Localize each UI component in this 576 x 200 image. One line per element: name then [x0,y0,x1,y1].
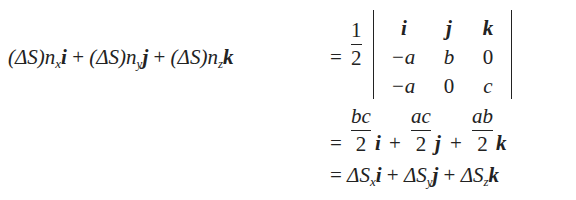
unit-vector-k: k [496,133,507,154]
unit-vector-j: j [433,163,439,187]
delta-s-coef: (ΔS) [89,45,126,69]
det-cell-r0c2: k [483,18,494,39]
fraction-denominator: 2 [477,134,488,155]
fraction-denominator: 2 [356,134,367,155]
normal-n: n [45,45,56,69]
equals-sign-line1: = [330,47,342,68]
unit-vector-j: j [435,133,441,154]
normal-n: n [126,45,137,69]
fraction-bar [351,44,362,45]
unit-vector-k: k [223,45,234,69]
lhs-term-z: (ΔS)nzk [171,45,234,69]
plus-sign: + [153,45,165,69]
det-cell-r2c1: 0 [444,76,455,97]
fraction-numerator: ab [472,106,493,127]
normal-n: n [207,45,218,69]
fraction-bc-over-2: bc 2 [351,106,371,155]
unit-vector-j: j [142,45,148,69]
plus-sign: + [72,45,84,69]
equation-line3: = ΔSxi + ΔSyj + ΔSzk [330,165,499,186]
fraction-bar [411,130,431,131]
fraction-numerator: ac [411,106,431,127]
lhs-term-y: (ΔS)nyj [89,45,148,69]
det-cell-r0c0: i [401,18,407,39]
fraction-bar [351,130,371,131]
plus-sign: + [387,163,399,187]
unit-vector-k: k [489,163,500,187]
det-cell-r1c1: b [444,47,455,68]
plus-sign: + [450,133,462,154]
det-cell-r2c2: c [483,76,492,97]
det-cell-r2c0: −a [391,76,416,97]
determinant-left-bar [373,10,374,99]
equals-sign-line2: = [330,133,342,154]
det-cell-r0c1: j [446,18,452,39]
fraction-numerator: bc [351,106,371,127]
fraction-denominator: 2 [351,48,362,69]
fraction-ac-over-2: ac 2 [411,106,431,155]
fraction-one-half: 1 2 [351,20,362,69]
lhs-term-x: (ΔS)nxi [8,45,67,69]
det-cell-r1c2: 0 [483,47,494,68]
plus-sign: + [389,133,401,154]
fraction-ab-over-2: ab 2 [472,106,493,155]
delta-s-x: ΔS [347,163,370,187]
delta-s-coef: (ΔS) [8,45,45,69]
det-cell-r1c0: −a [391,47,416,68]
unit-vector-i: i [376,163,382,187]
fraction-denominator: 2 [416,134,427,155]
fraction-bar [472,130,493,131]
determinant-right-bar [511,10,512,99]
delta-s-z: ΔS [461,163,484,187]
unit-vector-i: i [375,133,381,154]
delta-s-y: ΔS [404,163,427,187]
equals-sign-line3: = [330,163,342,187]
unit-vector-i: i [61,45,67,69]
fraction-numerator: 1 [351,20,362,41]
delta-s-coef: (ΔS) [171,45,208,69]
equation-line1-lhs: (ΔS)nxi + (ΔS)nyj + (ΔS)nzk [8,47,233,68]
plus-sign: + [444,163,456,187]
